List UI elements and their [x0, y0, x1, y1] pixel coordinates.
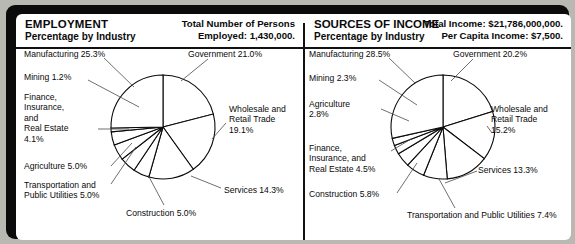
employment-stat-line2: Employed: 1,430,000. [198, 30, 295, 42]
employment-title: EMPLOYMENT [25, 18, 108, 31]
pie-slice-manufacturing [391, 75, 443, 138]
income-header: SOURCES OF INCOME Percentage by Industry… [305, 14, 571, 47]
label-agriculture-right: Agriculture 2.8% [309, 99, 350, 120]
label-manufacturing-right: Manufacturing 28.5% [309, 49, 390, 59]
label-transportation-left: Transportation and Public Utilities 5.0% [24, 180, 99, 201]
leader-line [439, 179, 455, 208]
label-finance-left: Finance, Insurance, and Real Estate 4.1% [24, 92, 68, 144]
employment-subtitle: Percentage by Industry [25, 31, 136, 43]
income-subtitle: Percentage by Industry [314, 31, 425, 43]
label-government-left: Government 21.0% [188, 49, 262, 59]
outer-frame: EMPLOYMENT Percentage by Industry Total … [6, 5, 569, 239]
label-wholesale-right: Wholesale and Retail Trade 15.2% [491, 104, 548, 135]
label-services-right: Services 13.3% [478, 165, 538, 175]
employment-header: EMPLOYMENT Percentage by Industry Total … [16, 14, 303, 47]
employment-chart-area: Manufacturing 25.3% Mining 1.2% Finance,… [16, 47, 303, 240]
pie-left-slices [111, 75, 215, 179]
leader-line [389, 58, 415, 83]
label-construction-left: Construction 5.0% [126, 208, 196, 218]
income-title: SOURCES OF INCOME [314, 18, 439, 31]
label-transportation-right: Transportation and Public Utilities 7.4% [407, 210, 557, 220]
leader-line [451, 59, 473, 81]
label-mining-left: Mining 1.2% [24, 72, 71, 82]
label-mining-right: Mining 2.3% [309, 73, 356, 83]
pie-right-slices [391, 75, 495, 179]
label-construction-right: Construction 5.8% [309, 189, 379, 199]
label-wholesale-left: Wholesale and Retail Trade 19.1% [229, 104, 286, 135]
label-manufacturing-left: Manufacturing 25.3% [24, 49, 105, 59]
employment-stat-line1: Total Number of Persons [182, 18, 295, 30]
label-services-left: Services 14.3% [224, 185, 284, 195]
leader-line [104, 58, 134, 87]
income-stat-line2: Per Capita Income: $7,500. [441, 30, 563, 42]
label-government-right: Government 20.2% [453, 49, 527, 59]
panel-employment: EMPLOYMENT Percentage by Industry Total … [16, 14, 303, 240]
income-chart-area: Manufacturing 28.5% Mining 2.3% Agricult… [305, 47, 571, 240]
leader-line [181, 59, 208, 81]
pie-slice-manufacturing [111, 75, 163, 128]
leader-line [191, 176, 221, 188]
infographic-root: EMPLOYMENT Percentage by Industry Total … [0, 0, 575, 244]
income-stat-line1: Total Income: $21,786,000,000. [424, 18, 563, 30]
chart-sheet: EMPLOYMENT Percentage by Industry Total … [16, 14, 571, 240]
label-finance-right: Finance, Insurance, and Real Estate 4.5% [309, 143, 375, 174]
panel-sources-of-income: SOURCES OF INCOME Percentage by Industry… [305, 14, 571, 240]
leader-line [397, 163, 417, 193]
label-agriculture-left: Agriculture 5.0% [24, 161, 87, 171]
